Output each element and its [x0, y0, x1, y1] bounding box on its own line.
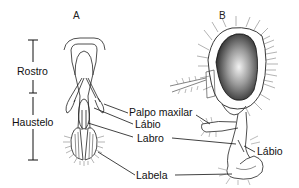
compound-eye: [216, 34, 258, 101]
labio-label-a: Lábio: [135, 119, 161, 130]
leader-labro-a: [88, 123, 133, 137]
leader-labela-a: [98, 152, 135, 175]
labellum-hairs-a: [63, 136, 105, 166]
leader-palpo-maxilar-a: [104, 104, 128, 113]
haustelo-label: Haustelo: [12, 117, 53, 128]
labro-label: Labro: [137, 133, 164, 144]
labela-label: Labela: [136, 170, 168, 181]
leader-labio-a: [94, 108, 133, 124]
mouthparts-diagram: [0, 0, 299, 188]
leader-labro-b: [172, 138, 236, 144]
labio-label-b: Lábio: [257, 146, 283, 157]
palpo-maxilar-label: Palpo maxilar: [129, 107, 193, 118]
antenna: [170, 70, 215, 98]
panel-label-a: A: [73, 11, 80, 21]
panel-label-b: B: [219, 11, 226, 21]
proboscis-front-view: [64, 38, 105, 160]
fly-head-side-view: [208, 28, 266, 109]
leader-palpo-maxilar-b: [196, 115, 210, 124]
rostro-label: Rostro: [17, 66, 48, 77]
haustelo-dimension-bar: [28, 97, 38, 160]
